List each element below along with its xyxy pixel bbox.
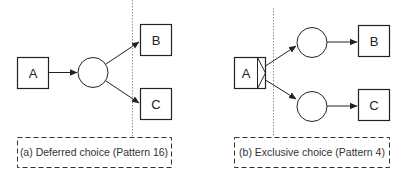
condition-place (78, 58, 108, 88)
arrow-condition-to-b (106, 42, 139, 64)
task-c: C (359, 90, 390, 121)
task-a: A (18, 58, 49, 89)
task-c-label: C (369, 98, 378, 113)
task-a-label: A (242, 66, 251, 81)
task-b: B (359, 26, 390, 57)
task-c: C (141, 89, 172, 120)
arrow-a-to-condition-2 (266, 80, 297, 99)
caption-box-b: (b) Exclusive choice (Pattern 4) (235, 138, 390, 168)
task-b-label: B (370, 34, 379, 49)
diagram-deferred-choice: A B C (a) Deferred choice (Pattern 16) (18, 0, 172, 168)
task-a-xor-split: A (235, 58, 266, 89)
caption-a: (a) Deferred choice (Pattern 16) (20, 146, 168, 158)
condition-place-1 (297, 28, 327, 58)
caption-b: (b) Exclusive choice (Pattern 4) (239, 146, 385, 158)
task-b-label: B (152, 33, 161, 48)
patterns-figure: A B C (a) Deferred choice (Pattern 16) A (0, 0, 408, 181)
caption-box-a: (a) Deferred choice (Pattern 16) (18, 138, 172, 168)
arrow-condition-to-c (106, 81, 139, 103)
task-c-label: C (151, 97, 160, 112)
task-a-label: A (29, 66, 38, 81)
condition-place-2 (297, 92, 327, 122)
task-b: B (141, 25, 172, 56)
diagram-exclusive-choice: A B C (b) Exclusive choice (Pattern 4) (235, 8, 390, 168)
arrow-a-to-condition-1 (266, 46, 297, 66)
